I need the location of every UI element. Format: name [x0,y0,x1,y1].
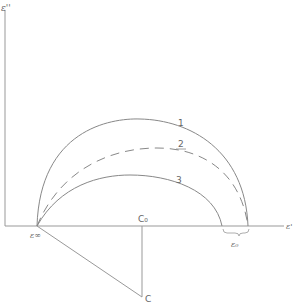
y-axis-label: ε'' [1,3,11,13]
cole-cole-diagram: ε'' ε' ε∞ C₀ C ε₀ 1 2 3 [0,0,294,306]
curve-1 [37,119,248,226]
eps0-label: ε₀ [231,240,239,249]
eps0-brace [223,229,249,236]
curve-3 [37,175,222,226]
curve-1-label: 1 [178,118,184,128]
c-label: C [145,294,151,304]
c0-label: C₀ [138,214,148,224]
curve-3-label: 3 [176,175,182,185]
x-axis-label: ε' [286,222,293,231]
curve-2-label: 2 [178,139,184,149]
eps-inf-label: ε∞ [30,231,41,240]
line-eps-inf-to-c [37,226,142,297]
